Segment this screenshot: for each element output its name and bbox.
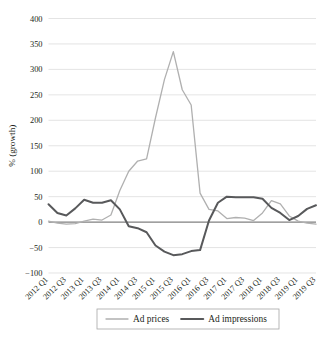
y-tick-label: 200 bbox=[30, 116, 43, 125]
y-tick-label: −100 bbox=[25, 269, 42, 278]
line-chart: 400350300250200150100500−50−100 2012 Q12… bbox=[0, 0, 335, 346]
y-axis-tick-labels: 400350300250200150100500−50−100 bbox=[25, 15, 42, 279]
y-tick-label: 300 bbox=[30, 65, 43, 74]
series-line-ad-impressions bbox=[49, 197, 317, 256]
y-tick-label: 0 bbox=[38, 218, 42, 227]
chart-figure: 400350300250200150100500−50−100 2012 Q12… bbox=[0, 0, 335, 346]
series-line-ad-prices bbox=[49, 52, 317, 225]
legend-label-ad-prices: Ad prices bbox=[133, 314, 170, 324]
legend-label-ad-impressions: Ad impressions bbox=[208, 314, 267, 324]
y-tick-label: 50 bbox=[34, 193, 42, 202]
chart-legend: Ad pricesAd impressions bbox=[97, 309, 279, 329]
gridlines-group bbox=[49, 19, 317, 274]
y-axis-title: % (growth) bbox=[7, 125, 17, 167]
y-tick-label: −50 bbox=[29, 244, 42, 253]
y-tick-label: 400 bbox=[30, 15, 43, 24]
y-tick-label: 250 bbox=[30, 91, 43, 100]
y-axis-title-text: % (growth) bbox=[7, 125, 17, 167]
y-tick-label: 100 bbox=[30, 167, 43, 176]
x-axis-tick-labels: 2012 Q12012 Q32013 Q12013 Q32014 Q12014 … bbox=[23, 275, 317, 301]
data-series-group bbox=[49, 52, 317, 256]
y-tick-label: 350 bbox=[30, 40, 43, 49]
y-tick-label: 150 bbox=[30, 142, 43, 151]
